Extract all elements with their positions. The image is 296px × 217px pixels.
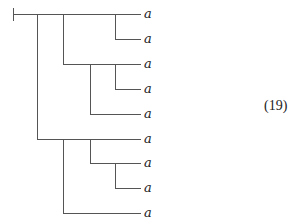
leaf-label: a (144, 106, 152, 121)
leaf-label: a (144, 6, 152, 21)
leaf-label: a (144, 31, 152, 46)
leaf-label: a (144, 81, 152, 96)
tree-diagram: aaaaaaaaa (0, 0, 296, 217)
leaf-label: a (144, 155, 152, 170)
leaf-label: a (144, 180, 152, 195)
leaf-label: a (144, 205, 152, 217)
equation-number: (19) (264, 98, 287, 114)
leaf-label: a (144, 56, 152, 71)
leaf-label: a (144, 131, 152, 146)
